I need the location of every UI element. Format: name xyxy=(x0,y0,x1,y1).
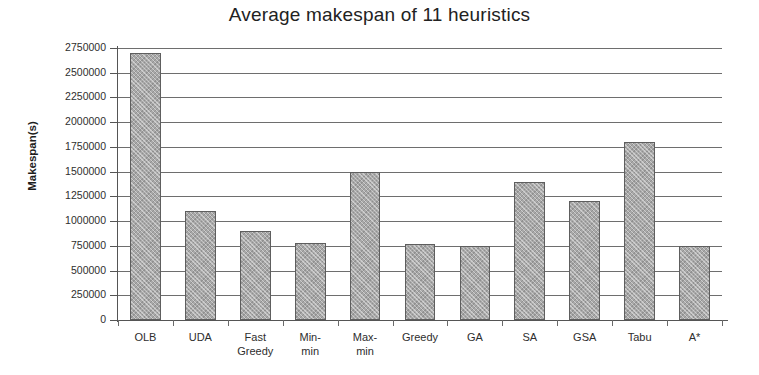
bar xyxy=(460,246,491,320)
bar xyxy=(295,243,326,320)
bar xyxy=(624,142,655,320)
x-tick-label: Greedy xyxy=(393,330,448,344)
x-axis-tick-labels: OLBUDAFast GreedyMin- minMax- minGreedyG… xyxy=(118,330,722,375)
y-tick-label: 1250000 xyxy=(38,190,106,201)
x-tick-label: SA xyxy=(502,330,557,344)
x-tick-mark xyxy=(173,320,174,326)
y-tick-mark xyxy=(110,221,118,222)
y-tick-mark xyxy=(110,320,118,321)
x-tick-mark xyxy=(447,320,448,326)
bar xyxy=(350,172,381,320)
x-tick-label: UDA xyxy=(173,330,228,344)
y-tick-label: 2750000 xyxy=(38,42,106,53)
x-tick-mark xyxy=(228,320,229,326)
bar xyxy=(405,244,436,320)
gridline xyxy=(118,48,722,49)
x-tick-label: Min- min xyxy=(283,330,338,358)
x-tick-label: GSA xyxy=(557,330,612,344)
y-tick-mark xyxy=(110,147,118,148)
y-tick-label: 1750000 xyxy=(38,141,106,152)
x-tick-label: Tabu xyxy=(612,330,667,344)
y-tick-mark xyxy=(110,246,118,247)
x-tick-mark xyxy=(722,320,723,326)
bar xyxy=(679,246,710,320)
y-axis-tick-labels: 0250000500000750000100000012500001500000… xyxy=(36,0,106,375)
x-tick-mark xyxy=(557,320,558,326)
y-tick-mark xyxy=(110,48,118,49)
y-tick-label: 2500000 xyxy=(38,67,106,78)
y-tick-mark xyxy=(110,295,118,296)
y-tick-label: 0 xyxy=(38,314,106,325)
y-tick-mark xyxy=(110,271,118,272)
x-tick-label: OLB xyxy=(118,330,173,344)
y-tick-label: 500000 xyxy=(38,265,106,276)
bar xyxy=(130,53,161,320)
chart-title: Average makespan of 11 heuristics xyxy=(0,4,759,26)
y-tick-label: 2250000 xyxy=(38,91,106,102)
gridline xyxy=(118,97,722,98)
x-tick-mark xyxy=(283,320,284,326)
x-tick-label: A* xyxy=(667,330,722,344)
y-tick-mark xyxy=(110,196,118,197)
y-tick-mark xyxy=(110,73,118,74)
bar xyxy=(240,231,271,320)
gridline xyxy=(118,320,722,321)
gridline xyxy=(118,73,722,74)
x-tick-mark xyxy=(502,320,503,326)
chart-figure: Average makespan of 11 heuristics Makesp… xyxy=(0,0,759,375)
y-tick-label: 1500000 xyxy=(38,166,106,177)
bar xyxy=(514,182,545,320)
x-tick-mark xyxy=(118,320,119,326)
x-tick-mark xyxy=(338,320,339,326)
x-tick-label: GA xyxy=(447,330,502,344)
y-tick-label: 750000 xyxy=(38,240,106,251)
gridline xyxy=(118,122,722,123)
x-tick-label: Fast Greedy xyxy=(228,330,283,358)
x-tick-mark xyxy=(612,320,613,326)
y-tick-label: 2000000 xyxy=(38,116,106,127)
x-tick-mark xyxy=(667,320,668,326)
bar xyxy=(569,201,600,320)
y-tick-label: 1000000 xyxy=(38,215,106,226)
y-tick-mark xyxy=(110,97,118,98)
y-tick-label: 250000 xyxy=(38,289,106,300)
y-tick-mark xyxy=(110,122,118,123)
y-tick-mark xyxy=(110,172,118,173)
plot-area xyxy=(118,48,722,320)
bar xyxy=(185,211,216,320)
x-tick-mark xyxy=(393,320,394,326)
x-tick-label: Max- min xyxy=(338,330,393,358)
